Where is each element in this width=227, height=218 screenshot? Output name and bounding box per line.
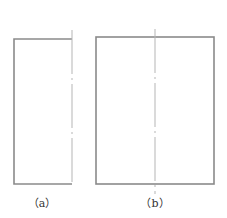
- caption-b: （b）: [140, 194, 169, 210]
- caption-a: （a）: [28, 194, 57, 210]
- panel-a-outline: [14, 39, 72, 184]
- panel-a: [14, 30, 72, 186]
- diagram-canvas: [0, 0, 227, 218]
- panel-b: [96, 29, 214, 194]
- figure: （a） （b）: [0, 0, 227, 218]
